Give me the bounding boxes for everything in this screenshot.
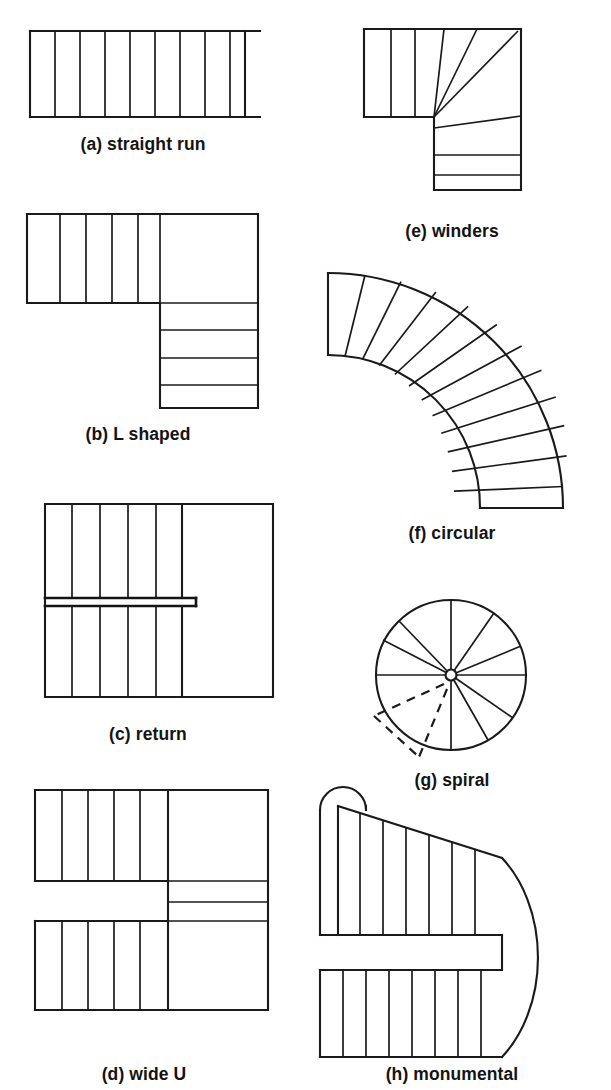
return-stair-well xyxy=(45,598,196,606)
caption-straight-run: (a) straight run xyxy=(80,134,205,154)
l-shaped-upper-treads xyxy=(60,214,160,303)
diagram-return: (c) return xyxy=(45,504,273,744)
caption-return: (c) return xyxy=(109,724,187,744)
winders-lower-treads xyxy=(434,155,521,175)
spiral-dashed-treads xyxy=(374,684,447,757)
figure-canvas: (a) straight run (b) L shaped xyxy=(0,0,611,1090)
caption-wide-u: (d) wide U xyxy=(102,1064,187,1084)
caption-circular: (f) circular xyxy=(409,523,496,543)
wide-u-turn-treads xyxy=(168,881,268,921)
return-lower-flight-treads xyxy=(72,606,182,697)
straight-run-treads xyxy=(30,31,245,117)
return-outline xyxy=(45,504,273,697)
circular-outline xyxy=(328,273,563,508)
l-shaped-outline xyxy=(27,214,258,408)
diagram-l-shaped: (b) L shaped xyxy=(27,214,258,444)
wide-u-lower-treads xyxy=(62,921,168,1010)
diagram-monumental: (h) monumental xyxy=(320,787,538,1084)
diagram-winders: (e) winders xyxy=(364,29,521,241)
wide-u-outline xyxy=(35,790,268,1010)
spiral-newel-post xyxy=(446,670,457,681)
wide-u-upper-treads xyxy=(62,790,168,881)
return-upper-flight-treads xyxy=(72,504,182,598)
diagram-circular: (f) circular xyxy=(328,273,567,543)
monumental-lower-treads xyxy=(343,970,481,1057)
diagram-straight-run: (a) straight run xyxy=(30,31,260,154)
circular-radial-treads xyxy=(345,276,566,492)
diagram-wide-u: (d) wide U xyxy=(35,790,268,1084)
winders-straight-treads xyxy=(391,29,415,117)
caption-monumental: (h) monumental xyxy=(386,1064,519,1084)
caption-spiral: (g) spiral xyxy=(415,770,490,790)
l-shaped-lower-treads xyxy=(160,303,258,385)
winders-wedge-treads xyxy=(434,29,521,128)
straight-run-stringers xyxy=(30,31,260,117)
diagram-spiral: (g) spiral xyxy=(374,600,526,790)
caption-l-shaped: (b) L shaped xyxy=(86,424,191,444)
caption-winders: (e) winders xyxy=(405,221,499,241)
stair-types-figure: (a) straight run (b) L shaped xyxy=(0,0,611,1090)
